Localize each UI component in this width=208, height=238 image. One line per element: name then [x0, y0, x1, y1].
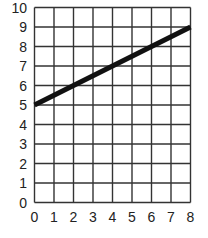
x-tick-label: 6	[148, 209, 156, 225]
x-tick-label: 8	[187, 209, 195, 225]
line-chart: 012345678910 012345678	[0, 0, 208, 238]
x-tick-label: 5	[128, 209, 136, 225]
x-tick-label: 2	[70, 209, 78, 225]
x-tick-label: 4	[109, 209, 117, 225]
x-tick-label: 3	[89, 209, 97, 225]
y-tick-label: 9	[19, 19, 27, 35]
y-tick-label: 0	[19, 195, 27, 211]
y-tick-label: 2	[19, 156, 27, 172]
y-tick-label: 3	[19, 136, 27, 152]
x-tick-label: 7	[167, 209, 175, 225]
x-axis-tick-labels: 012345678	[31, 209, 195, 225]
x-tick-label: 0	[31, 209, 39, 225]
y-tick-label: 10	[11, 0, 27, 16]
y-tick-label: 7	[19, 58, 27, 74]
y-tick-label: 5	[19, 97, 27, 113]
y-tick-label: 1	[19, 175, 27, 191]
y-tick-label: 4	[19, 117, 27, 133]
y-axis-tick-labels: 012345678910	[11, 0, 27, 211]
y-tick-label: 8	[19, 39, 27, 55]
x-tick-label: 1	[50, 209, 58, 225]
y-tick-label: 6	[19, 78, 27, 94]
